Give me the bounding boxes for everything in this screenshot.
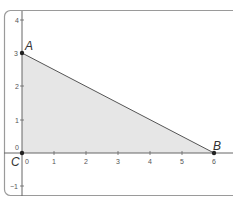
y-tick-label-minus1: −1: [10, 183, 18, 190]
y-tick-label-4: 4: [15, 17, 19, 24]
x-tick-label-1: 1: [52, 158, 56, 165]
y-tick-label-2: 2: [15, 83, 19, 90]
x-tick-label-3: 3: [116, 158, 120, 165]
point-c-marker: [20, 151, 24, 155]
x-tick-label-0: 0: [25, 158, 29, 165]
y-tick-label-0: 0: [15, 144, 19, 151]
y-tick-label-3: 3: [14, 50, 18, 57]
point-b-label: B: [213, 139, 221, 153]
point-a-marker: [20, 51, 24, 55]
y-tick-label-1: 1: [15, 117, 19, 124]
x-tick-label-4: 4: [148, 158, 152, 165]
x-tick-label-5: 5: [180, 158, 184, 165]
x-tick-label-6: 6: [212, 158, 216, 165]
triangle-chart: 0 1 2 3 4 5 6 4 3 2 1 0 −1 A B C: [0, 0, 233, 200]
point-a-label: A: [24, 39, 33, 53]
x-tick-label-2: 2: [84, 158, 88, 165]
point-c-label: C: [11, 155, 20, 169]
